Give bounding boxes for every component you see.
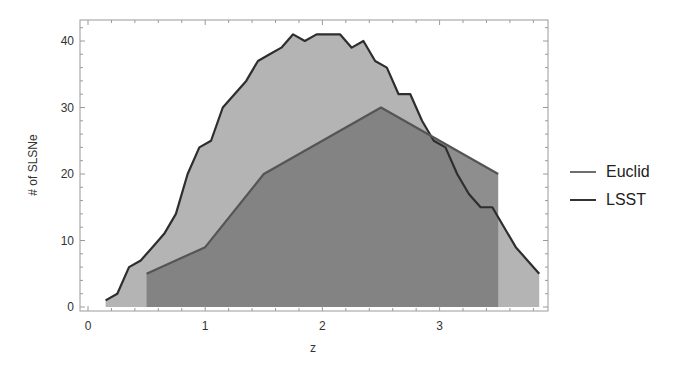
x-tick-label: 3 [436,319,443,333]
x-tick-label: 1 [202,319,209,333]
legend-label-lsst: LSST [606,191,646,209]
y-tick-label: 20 [61,167,75,181]
legend-swatch-lsst [570,199,596,201]
legend: Euclid LSST [570,158,650,214]
legend-item-euclid: Euclid [570,158,650,186]
x-tick-label: 2 [319,319,326,333]
x-axis-label: z [310,341,316,355]
y-tick-label: 40 [61,34,75,48]
y-tick-label: 30 [61,101,75,115]
y-axis-label: # of SLSNe [26,134,40,196]
x-tick-label: 0 [85,319,92,333]
legend-item-lsst: LSST [570,186,650,214]
series-areas [106,34,540,307]
y-tick-label: 10 [61,234,75,248]
y-tick-label: 0 [67,300,74,314]
legend-label-euclid: Euclid [606,163,650,181]
legend-swatch-euclid [570,171,596,173]
